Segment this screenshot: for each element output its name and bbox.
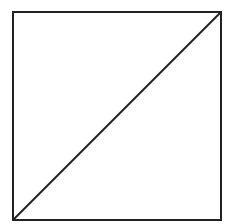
diagram-canvas (0, 0, 235, 224)
diagonal-line (13, 12, 221, 220)
